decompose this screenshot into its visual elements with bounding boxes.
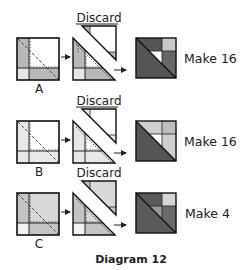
discard-label: Discard bbox=[76, 11, 121, 25]
result-label: Make 16 bbox=[184, 51, 237, 66]
block-label: A bbox=[35, 82, 44, 96]
result-label: Make 16 bbox=[184, 134, 237, 149]
result-block-a bbox=[136, 38, 176, 78]
result-label: Make 4 bbox=[185, 206, 230, 221]
row-a: Discard Make 16 A bbox=[17, 11, 237, 96]
row-c: Discard Make 4 C bbox=[17, 166, 230, 251]
block-a-start bbox=[17, 38, 59, 80]
row-b: Discard Make 16 B bbox=[17, 94, 237, 179]
block-label: C bbox=[35, 237, 43, 251]
block-c-start bbox=[17, 193, 59, 235]
result-block-c bbox=[136, 193, 176, 233]
discard-label: Discard bbox=[76, 94, 121, 108]
block-b-start bbox=[17, 121, 59, 163]
block-label: B bbox=[35, 165, 43, 179]
result-block-b bbox=[136, 121, 176, 161]
discard-label: Discard bbox=[76, 166, 121, 180]
diagram-title: Diagram 12 bbox=[95, 253, 167, 266]
diagram-12: Discard Make 16 A bbox=[0, 0, 246, 270]
